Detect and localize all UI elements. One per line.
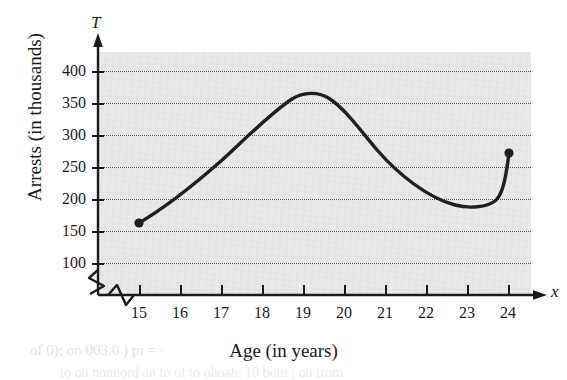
arrests-curve — [139, 93, 509, 223]
y-axis-variable-label: T — [91, 14, 100, 31]
x-axis-arrowhead — [533, 290, 547, 300]
endpoint-marker-age-24 — [504, 148, 513, 157]
scan-bleed-text-line-2: to on nonnord on to of to ohoab; 10 both… — [60, 365, 343, 380]
y-axis-break-zigzag — [89, 270, 104, 294]
axes-and-curve — [0, 0, 567, 380]
arrests-vs-age-chart: 400 350 300 250 200 150 100 15 16 17 18 … — [0, 0, 567, 380]
y-axis-arrowhead — [93, 33, 103, 47]
y-axis-title: Arrests (in thousands) — [24, 2, 46, 232]
endpoint-marker-age-15 — [134, 218, 143, 227]
scan-bleed-text-line-1: of 0); on 003.0 ) pi = · — [30, 342, 164, 359]
x-axis-variable-label: x — [551, 283, 559, 300]
